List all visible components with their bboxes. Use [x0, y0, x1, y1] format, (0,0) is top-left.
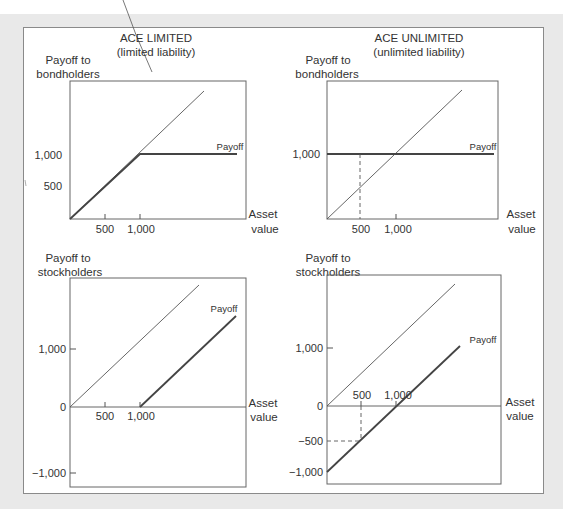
x-axis-label-line2: value	[251, 223, 279, 235]
y-axis-label-line2: bondholders	[295, 68, 359, 80]
payoff-line	[327, 346, 460, 472]
chart-limited-bondholders: Payoff to bondholders Payoff 1,000 500 5…	[34, 54, 278, 235]
payoff-label: Payoff	[470, 141, 497, 152]
x-axis-label-line2: value	[250, 411, 278, 423]
left-subtitle: (limited liability)	[117, 46, 196, 58]
y-axis-label-line1: Payoff to	[45, 54, 90, 66]
x-axis-label-line1: Asset	[249, 397, 279, 409]
chart-unlimited-stockholders: Payoff to stockholders Payoff 1,000 0 −5…	[289, 252, 535, 484]
y-tick-label-0: 0	[60, 401, 66, 413]
y-tick-label-1000: 1,000	[295, 342, 323, 354]
x-tick-label-500: 500	[352, 223, 370, 235]
y-axis-label-line2: stockholders	[296, 266, 361, 278]
y-tick-label-neg1000: −1,000	[32, 467, 66, 479]
plot-frame	[327, 275, 501, 484]
stray-mark	[25, 180, 26, 186]
x-axis-label-line1: Asset	[249, 208, 279, 220]
y-axis-label-line1: Payoff to	[305, 54, 350, 66]
x-tick-label-1000: 1,000	[384, 223, 412, 235]
right-subtitle: (unlimited liability)	[373, 46, 465, 58]
payoff-label: Payoff	[217, 141, 244, 152]
y-tick-label-500: 500	[44, 180, 62, 192]
y-tick-label-1000: 1,000	[38, 343, 66, 355]
y-tick-label-1000: 1,000	[292, 148, 320, 160]
x-tick-label-500: 500	[96, 410, 114, 422]
y-tick-label-0: 0	[317, 400, 323, 412]
x-axis-label-line1: Asset	[507, 208, 537, 220]
x-axis-label-line2: value	[506, 410, 534, 422]
payoff-line	[70, 154, 237, 219]
reference-45-line	[327, 284, 455, 406]
y-axis-label-line1: Payoff to	[305, 252, 350, 264]
y-axis-label-line2: stockholders	[38, 266, 103, 278]
y-axis-label-line1: Payoff to	[45, 252, 90, 264]
payoff-label: Payoff	[470, 334, 497, 345]
y-axis-label-line2: bondholders	[36, 68, 100, 80]
right-title: ACE UNLIMITED	[375, 32, 464, 44]
payoff-label: Payoff	[211, 303, 238, 314]
x-axis-label-line1: Asset	[506, 396, 536, 408]
payoff-line	[140, 316, 236, 407]
x-tick-label-500: 500	[96, 223, 114, 235]
left-title: ACE LIMITED	[120, 32, 192, 44]
x-tick-label-1000: 1,000	[127, 410, 155, 422]
payoff-diagram: ACE LIMITED (limited liability) ACE UNLI…	[0, 0, 563, 509]
x-tick-label-1000: 1,000	[127, 223, 155, 235]
chart-unlimited-bondholders: Payoff to bondholders Payoff 1,000 500 1…	[292, 54, 536, 235]
chart-limited-stockholders: Payoff to stockholders Payoff 1,000 0 −1…	[32, 252, 278, 487]
y-tick-label-neg1000: −1,000	[289, 466, 323, 478]
y-tick-label-neg500: −500	[298, 435, 323, 447]
reference-45-line	[70, 285, 199, 407]
x-tick-label-500: 500	[353, 389, 371, 401]
y-tick-label-1000: 1,000	[34, 149, 62, 161]
x-tick-label-1000: 1,000	[384, 389, 412, 401]
x-axis-label-line2: value	[508, 223, 536, 235]
